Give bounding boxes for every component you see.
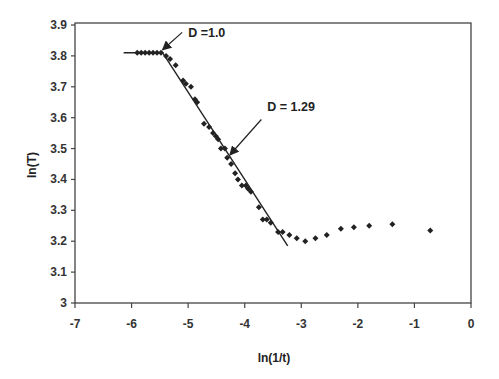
data-point — [188, 84, 194, 90]
x-tick-label: -7 — [70, 317, 81, 331]
data-point — [312, 235, 318, 241]
data-point — [302, 238, 308, 244]
annotation-arrow — [163, 32, 182, 49]
y-tick-label: 3.2 — [50, 234, 67, 248]
y-tick-label: 3.5 — [50, 142, 67, 156]
plot-border — [75, 23, 471, 303]
x-axis: -7-6-5-4-3-2-10 — [70, 303, 475, 331]
annotation-label: D =1.0 — [188, 26, 225, 40]
x-tick-label: -4 — [239, 317, 250, 331]
y-axis-title: ln(T) — [25, 152, 39, 178]
annotation-arrow — [230, 119, 261, 154]
x-tick-label: -2 — [353, 317, 364, 331]
data-point — [294, 235, 300, 241]
data-point — [232, 170, 238, 176]
y-tick-label: 3.6 — [50, 111, 67, 125]
data-point — [158, 50, 164, 56]
data-point — [235, 176, 241, 182]
data-point — [338, 226, 344, 232]
y-tick-label: 3.8 — [50, 49, 67, 63]
data-point — [206, 124, 212, 130]
y-tick-label: 3.4 — [50, 172, 67, 186]
data-point — [389, 221, 395, 227]
x-axis-title: ln(1/t) — [258, 351, 291, 365]
y-tick-label: 3 — [60, 296, 67, 310]
data-point — [324, 232, 330, 238]
y-axis: 33.13.23.33.43.53.63.73.83.9 — [50, 18, 75, 310]
x-tick-label: -6 — [126, 317, 137, 331]
x-tick-label: -3 — [296, 317, 307, 331]
x-tick-label: 0 — [468, 317, 475, 331]
x-tick-label: -5 — [183, 317, 194, 331]
data-point — [427, 227, 433, 233]
y-tick-label: 3.1 — [50, 265, 67, 279]
data-point — [286, 232, 292, 238]
annotation-label: D = 1.29 — [267, 100, 315, 114]
plot-area — [75, 23, 471, 303]
y-tick-label: 3.9 — [50, 18, 67, 32]
data-point — [201, 121, 207, 127]
y-tick-label: 3.7 — [50, 80, 67, 94]
data-point — [351, 224, 357, 230]
chart: 33.13.23.33.43.53.63.73.83.9 -7-6-5-4-3-… — [0, 0, 499, 379]
annotations: D =1.0D = 1.29 — [163, 26, 315, 154]
data-point — [173, 62, 179, 68]
y-tick-label: 3.3 — [50, 203, 67, 217]
data-point — [366, 223, 372, 229]
x-tick-label: -1 — [409, 317, 420, 331]
